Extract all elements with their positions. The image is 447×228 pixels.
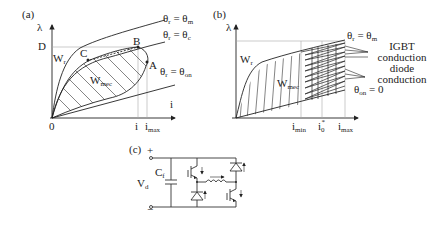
cf-label: Cf	[155, 166, 165, 180]
x-axis-label: i	[170, 98, 173, 110]
c-b-segment	[90, 47, 138, 60]
vd-label: Vd	[137, 177, 149, 191]
point-c-label: C	[80, 47, 87, 59]
panel-c: (c) + − Vd Cf	[129, 143, 244, 215]
curve-label-theta-c: θr = θc	[163, 28, 191, 42]
curve-label-theta-on: θr = θon	[160, 65, 192, 79]
curve-label-theta-m: θr = θm	[163, 12, 194, 26]
phase-winding	[197, 177, 237, 183]
curve-theta-on	[52, 85, 175, 118]
curve-theta-on	[236, 90, 345, 118]
diode-bottom	[191, 192, 203, 200]
panel-a: (a) λ i D 0 i imax	[22, 8, 194, 145]
y-axis-label: λ	[226, 21, 232, 33]
panel-c-label: (c)	[129, 143, 142, 156]
wmec-label: Wmec	[90, 74, 112, 88]
x-tick-imax: imax	[145, 120, 161, 134]
x-tick-imin: imin	[292, 120, 306, 134]
point-b-label: B	[133, 35, 140, 47]
panel-b: (b) λ imin i0* imax	[213, 8, 427, 134]
y-axis-label: λ	[37, 21, 43, 33]
x-tick-i0: i0*	[318, 118, 326, 134]
diode-top	[230, 163, 242, 171]
y-tick-d: D	[38, 40, 46, 52]
curve-label-theta-m: θr = θm	[347, 29, 378, 43]
x-tick-i: i	[135, 120, 138, 132]
curve-label-theta-on: θon = 0	[354, 83, 384, 97]
x-tick-imax: imax	[338, 120, 354, 134]
point-a-label: A	[149, 59, 157, 71]
wmec-label: Wmec	[277, 77, 299, 91]
wr-label: Wr	[53, 52, 66, 66]
capacitor	[165, 158, 177, 207]
origin-label: 0	[49, 120, 55, 132]
wr-label: Wr	[240, 53, 253, 67]
plus-terminal-label: +	[147, 144, 153, 156]
panel-a-label: (a)	[22, 8, 35, 21]
annotation-diode-conduction: conduction	[378, 73, 427, 85]
minus-terminal-label: −	[147, 203, 153, 215]
annotation-pointers	[345, 46, 368, 79]
srm-diagram: (a) λ i D 0 i imax	[0, 0, 447, 228]
panel-b-label: (b)	[213, 8, 226, 21]
left-leg	[188, 158, 205, 207]
